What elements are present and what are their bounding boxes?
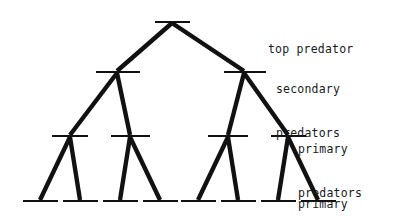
energy-flow-edge (228, 137, 238, 200)
figure-canvas: top predator secondary predators primary… (0, 0, 419, 216)
energy-flow-edge (117, 73, 130, 135)
label-secondary-predators-line1: secondary (276, 82, 340, 97)
energy-flow-edge (70, 137, 80, 200)
energy-flow-edge (198, 137, 228, 200)
label-primary-producers-line1: primary (298, 197, 362, 212)
label-primary-predators-line1: primary (298, 142, 362, 157)
energy-flow-edge (130, 137, 160, 200)
label-primary-producers: primary producers (298, 168, 362, 216)
energy-flow-edge (172, 23, 244, 71)
energy-flow-edge (117, 23, 172, 71)
energy-flow-edge (40, 137, 70, 200)
energy-flow-edge (120, 137, 130, 200)
energy-flow-edge (228, 73, 244, 135)
energy-flow-edge (70, 73, 117, 135)
